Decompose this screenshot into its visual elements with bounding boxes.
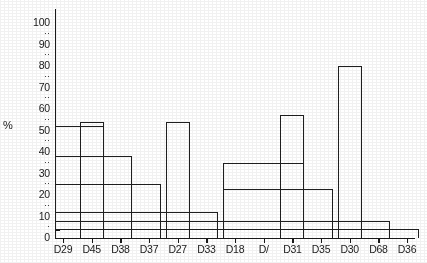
y-axis-tick-labels: 100··90··80··70··60··50··40··30··20··10·…: [14, 0, 50, 263]
x-tick-label-D33: D33: [197, 243, 215, 255]
x-axis-tick-labels: D29D45D38D37D27D33D18D/D31D35D30D68D36: [55, 243, 415, 261]
y-tick-minor-5: ·: [20, 223, 50, 229]
x-tick-label-D36: D36: [398, 243, 416, 255]
y-tick-label-10: 10: [20, 211, 50, 221]
y-tick-label-50: 50: [20, 125, 50, 135]
x-tick-label-D27: D27: [168, 243, 186, 255]
y-tick-minor-95: ··: [20, 30, 50, 36]
y-tick-label-70: 70: [20, 82, 50, 92]
y-tick-minor-35: ··: [20, 159, 50, 165]
x-tick-label-D18: D18: [226, 243, 244, 255]
plot-area: [55, 9, 415, 239]
y-tick-label-30: 30: [20, 168, 50, 178]
bar-segment-D29-D36-4: [55, 229, 419, 238]
y-tick-label-40: 40: [20, 146, 50, 156]
x-tick-label-D/: D/: [259, 243, 269, 255]
y-tick-minor-75: ··: [20, 73, 50, 79]
bar-chart: % 100··90··80··70··60··50··40··30··20··1…: [0, 0, 427, 263]
x-tick-label-D29: D29: [54, 243, 72, 255]
y-tick-minor-15: ··: [20, 202, 50, 208]
y-tick-label-80: 80: [20, 60, 50, 70]
x-tick-label-D38: D38: [111, 243, 129, 255]
x-tick-label-D35: D35: [312, 243, 330, 255]
y-axis-unit-label: %: [3, 119, 13, 131]
y-tick-minor-85: ··: [20, 51, 50, 57]
y-tick-label-60: 60: [20, 103, 50, 113]
x-tick-label-D45: D45: [82, 243, 100, 255]
y-tick-label-20: 20: [20, 189, 50, 199]
y-tick-minor-65: ··: [20, 94, 50, 100]
y-tick-minor-25: ··: [20, 180, 50, 186]
x-tick-label-D31: D31: [283, 243, 301, 255]
y-tick-label-90: 90: [20, 39, 50, 49]
x-tick-label-D30: D30: [340, 243, 358, 255]
y-tick-minor-45: ··: [20, 137, 50, 143]
y-tick-label-0: 0: [20, 232, 50, 242]
bar-segment-D30-80: [338, 66, 362, 238]
x-tick-label-D68: D68: [369, 243, 387, 255]
x-tick-label-D37: D37: [140, 243, 158, 255]
y-tick-minor-55: ··: [20, 116, 50, 122]
y-tick-label-100: 100: [20, 17, 50, 27]
